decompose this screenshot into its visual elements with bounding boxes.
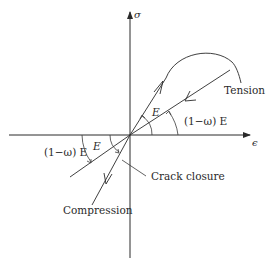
slope-damaged-compression-label: (1−ω) E	[44, 146, 87, 158]
slope-E-compression-label: E	[92, 140, 101, 152]
elastic-loading-line	[130, 78, 166, 135]
softening-curve	[166, 53, 241, 83]
crack-closure-label: Crack closure	[151, 170, 225, 182]
compression-label: Compression	[63, 204, 133, 216]
tension-label: Tension	[224, 84, 265, 96]
strain-axis-label: ϵ	[252, 137, 258, 148]
slope-E-tension-label: E	[151, 106, 160, 118]
crack-closure-leader	[122, 160, 146, 176]
angle-arc-E-tension	[142, 116, 152, 135]
slope-damaged-tension-label: (1−ω) E	[184, 115, 227, 127]
stress-axis-label: σ	[134, 9, 142, 20]
loading-arrow-icon	[154, 81, 163, 94]
stress-strain-diagram: σ ϵ E (1−ω) E Tension E (1−ω) E Crack cl…	[0, 0, 272, 276]
angle-arc-damaged-tension	[169, 112, 178, 135]
